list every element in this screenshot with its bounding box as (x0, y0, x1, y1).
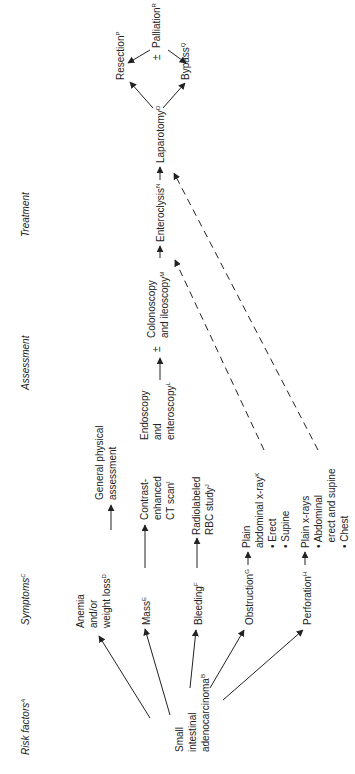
treatment-resection: ResectionP (115, 32, 126, 80)
svg-text:and ileoscopyM: and ileoscopyM (159, 272, 170, 338)
svg-text:assessment: assessment (107, 446, 118, 500)
treatment-laparotomy: LaparotomyO (155, 105, 166, 163)
plusminus-palliation: ± (151, 54, 162, 60)
symptom-anemia-weight-loss: Anemia and/or weight lossD (75, 574, 112, 629)
assessment-endoscopy-enteroscopy: Endoscopy and enteroscopyL (139, 382, 176, 440)
svg-text:abdominal x-rayK: abdominal x-rayK (254, 473, 265, 548)
header-assessment: Assessment (20, 334, 31, 391)
svg-text:Anemia: Anemia (75, 594, 86, 628)
assessment-general-physical: General physical assessment (94, 426, 118, 500)
treatment-bypass: BypassQ (180, 42, 191, 80)
assessment-plain-xrays: Plain x-rays • Abdominal erect and supin… (300, 468, 350, 548)
svg-text:enteroscopyL: enteroscopyL (165, 382, 176, 440)
svg-text:adenocarcinomaB: adenocarcinomaB (200, 674, 211, 752)
svg-text:erect and supine: erect and supine (326, 468, 337, 548)
svg-text:Plain: Plain (241, 526, 252, 548)
symptom-perforation: PerforationH (302, 572, 313, 625)
treatment-enteroclysis: EnteroclysisN (155, 184, 166, 242)
plusminus-colonoscopy: ± (151, 346, 162, 352)
svg-text:intestinal: intestinal (187, 713, 198, 752)
svg-text:RBC studyJ: RBC studyJ (204, 484, 215, 535)
svg-text:Endoscopy: Endoscopy (139, 391, 150, 440)
svg-text:and/or: and/or (88, 599, 99, 628)
header-risk-factors: Risk factorsA (20, 699, 31, 755)
treatment-palliation: PalliationR (151, 2, 162, 48)
svg-text:• Erect: • Erect (267, 518, 278, 548)
svg-text:Contrast-: Contrast- (139, 479, 150, 520)
svg-text:• Abdominal: • Abdominal (313, 495, 324, 548)
svg-text:and: and (152, 423, 163, 440)
assessment-colonoscopy-ileoscopy: Colonoscopy and ileoscopyM (146, 272, 170, 338)
flowchart-canvas: Risk factorsA SymptomsC Assessment Treat… (0, 0, 355, 774)
svg-text:• Chest: • Chest (339, 515, 350, 548)
svg-text:CT scanI: CT scanI (165, 481, 176, 520)
arrow-to-bleeding (190, 630, 196, 688)
arrow-to-mass (145, 629, 170, 715)
arrow-laparotomy-to-resection (130, 82, 153, 108)
header-treatment: Treatment (20, 191, 31, 237)
svg-text:weight lossD: weight lossD (101, 574, 112, 629)
arrow-to-obstruction (210, 630, 244, 688)
arrow-palliation-to-resection (128, 50, 150, 63)
node-small-intestinal-adenocarcinoma: Small intestinal adenocarcinomaB (174, 674, 211, 752)
assessment-rbc-study: Radiolabeled RBC studyJ (191, 477, 215, 535)
symptom-bleeding: BleedingF (193, 582, 204, 625)
arrow-to-anemia (99, 636, 150, 718)
svg-text:General physical: General physical (94, 426, 105, 500)
arrow-to-perforation (223, 630, 303, 700)
assessment-ct-scan: Contrast- enhanced CT scanI (139, 476, 176, 520)
arrow-laparotomy-to-bypass (163, 83, 185, 108)
symptom-obstruction: ObstructionG (244, 569, 255, 625)
svg-text:enhanced: enhanced (152, 476, 163, 520)
dashed-arrow-xray-to-enteroclysis (175, 260, 264, 450)
svg-text:Plain x-rays: Plain x-rays (300, 496, 311, 548)
svg-text:Radiolabeled: Radiolabeled (191, 477, 202, 535)
header-symptoms: SymptomsC (20, 573, 31, 625)
svg-text:Small: Small (174, 727, 185, 752)
assessment-plain-abdominal-xray: Plain abdominal x-rayK • Erect • Supine (241, 473, 291, 548)
svg-text:Colonoscopy: Colonoscopy (146, 280, 157, 338)
symptom-mass: MassE (141, 597, 152, 625)
dashed-arrow-xrays-to-laparotomy (174, 173, 318, 450)
svg-text:• Supine: • Supine (280, 510, 291, 548)
